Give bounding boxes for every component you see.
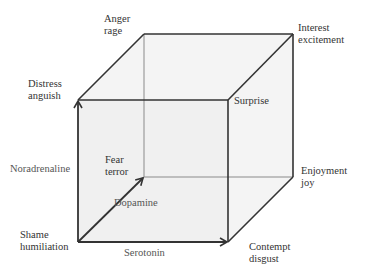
contempt-label: Contempt — [249, 241, 290, 253]
excitement-label: excitement — [298, 34, 344, 46]
disgust-label: disgust — [249, 253, 290, 265]
vertex-label-distress: Distress anguish — [28, 78, 62, 102]
noradrenaline-axis-label: Noradrenaline — [10, 163, 70, 175]
vertex-label-contempt: Contempt disgust — [249, 241, 290, 265]
joy-label: joy — [301, 177, 347, 189]
enjoyment-label: Enjoyment — [301, 165, 347, 177]
rage-label: rage — [104, 25, 130, 37]
anguish-label: anguish — [28, 90, 62, 102]
vertex-label-fear: Fear terror — [105, 154, 128, 178]
shame-label: Shame — [20, 229, 68, 241]
dopamine-axis-label: Dopamine — [114, 197, 158, 209]
vertex-label-interest: Interest excitement — [298, 22, 344, 46]
serotonin-axis-label: Serotonin — [124, 247, 165, 259]
surprise-label: Surprise — [234, 95, 269, 107]
interest-label: Interest — [298, 22, 344, 34]
distress-label: Distress — [28, 78, 62, 90]
vertex-label-surprise: Surprise — [234, 95, 269, 107]
anger-label: Anger — [104, 13, 130, 25]
humiliation-label: humiliation — [20, 241, 68, 253]
terror-label: terror — [105, 166, 128, 178]
fear-label: Fear — [105, 154, 128, 166]
vertex-label-shame: Shame humiliation — [20, 229, 68, 253]
vertex-label-anger: Anger rage — [104, 13, 130, 37]
vertex-label-enjoyment: Enjoyment joy — [301, 165, 347, 189]
